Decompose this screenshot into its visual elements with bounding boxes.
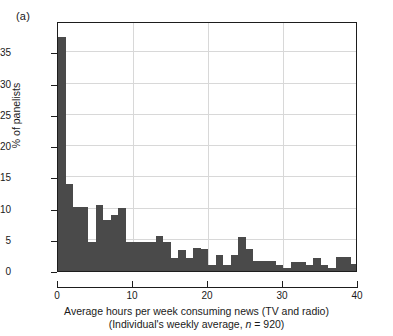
histogram-bar xyxy=(171,258,179,271)
y-axis-tick-mark xyxy=(51,272,57,273)
histogram-bar xyxy=(111,215,119,271)
x-axis-caption-line-2: (Individual's weekly average, n = 920) xyxy=(0,318,393,331)
x-axis-tick-label: 10 xyxy=(112,291,152,301)
y-axis: % of panelists 05101520253035 xyxy=(0,0,57,336)
histogram-bar xyxy=(336,257,344,271)
histogram-bar xyxy=(298,262,306,271)
y-axis-tick-label: 0 xyxy=(5,267,11,277)
histogram-bar xyxy=(261,261,269,271)
histogram-bar xyxy=(186,258,194,271)
histogram-bar xyxy=(328,268,336,271)
histogram-bar xyxy=(103,220,111,271)
histogram-bar xyxy=(201,249,209,272)
histogram-bar xyxy=(351,264,358,271)
x-axis-caption-line-1: Average hours per week consuming news (T… xyxy=(0,305,393,318)
x-axis-caption: Average hours per week consuming news (T… xyxy=(0,305,393,331)
y-axis-tick-label: 10 xyxy=(0,205,11,215)
x-axis-line xyxy=(57,287,358,288)
histogram-bar xyxy=(73,207,81,271)
histogram-bar xyxy=(133,242,141,271)
x-axis-tick-label: 30 xyxy=(262,291,302,301)
y-axis-tick-label: 25 xyxy=(0,111,11,121)
y-axis-tick-label: 5 xyxy=(5,236,11,246)
histogram-bar xyxy=(216,255,224,271)
histogram-bar xyxy=(178,250,186,271)
histogram-bar xyxy=(231,255,239,271)
histogram-bar xyxy=(276,265,284,271)
histogram-bar xyxy=(96,205,104,271)
histogram-bar xyxy=(88,242,96,271)
x-caption-pre: (Individual's weekly average, xyxy=(109,318,246,330)
histogram-bar xyxy=(268,261,276,271)
plot-area xyxy=(57,22,357,272)
histogram-bar xyxy=(246,249,254,271)
y-axis-title: % of panelists xyxy=(11,56,22,176)
histogram-bar xyxy=(66,184,74,272)
histogram-bar xyxy=(58,37,66,271)
y-axis-tick-label: 35 xyxy=(0,48,11,58)
y-axis-tick-label: 30 xyxy=(0,80,11,90)
histogram-bar xyxy=(343,257,351,271)
histogram-bars xyxy=(58,23,356,271)
histogram-bar xyxy=(156,236,164,271)
histogram-bar xyxy=(148,242,156,271)
histogram-bar xyxy=(81,207,89,271)
histogram-bar xyxy=(141,242,149,271)
x-axis-tick-mark xyxy=(132,281,133,287)
histogram-bar xyxy=(238,237,246,271)
histogram-bar xyxy=(253,261,261,271)
histogram-bar xyxy=(208,265,216,271)
histogram-bar xyxy=(163,242,171,271)
x-axis-tick-label: 20 xyxy=(187,291,227,301)
histogram-bar xyxy=(118,208,126,271)
histogram-bar xyxy=(321,265,329,271)
histogram-bar xyxy=(126,242,134,271)
histogram-bar xyxy=(291,262,299,271)
x-caption-post: = 920) xyxy=(251,318,284,330)
x-axis-tick-mark xyxy=(357,281,358,287)
histogram-bar xyxy=(306,265,314,271)
x-axis-tick-label: 40 xyxy=(337,291,377,301)
histogram-bar xyxy=(313,258,321,271)
x-axis-tick-label: 0 xyxy=(37,291,77,301)
x-axis-tick-mark xyxy=(57,281,58,287)
figure-panel-a: (a) % of panelists 05101520253035 010203… xyxy=(0,0,393,336)
x-axis-tick-mark xyxy=(282,281,283,287)
histogram-bar xyxy=(283,268,291,271)
y-axis-tick-label: 15 xyxy=(0,173,11,183)
x-axis-tick-mark xyxy=(207,281,208,287)
histogram-bar xyxy=(223,265,231,271)
y-axis-tick-label: 20 xyxy=(0,142,11,152)
histogram-bar xyxy=(193,248,201,271)
